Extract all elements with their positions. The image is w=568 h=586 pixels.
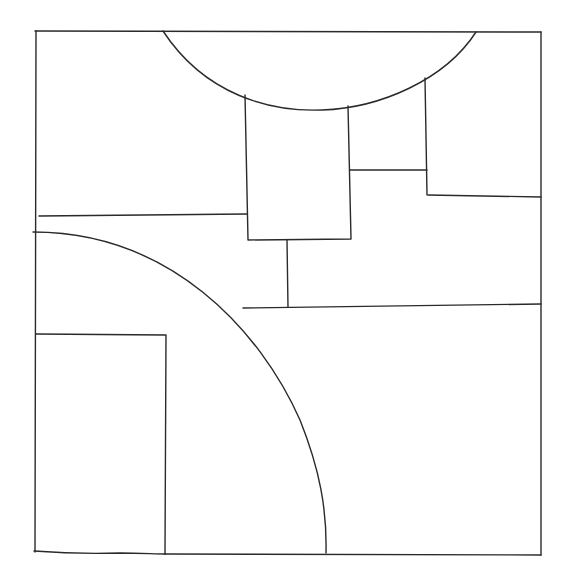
right-step-vertical (425, 78, 427, 195)
top-semicircle-arc (163, 31, 476, 110)
outer-frame-left (35, 31, 36, 552)
lower-left-quarter-arc (33, 232, 326, 553)
floor-plan-sketch (0, 0, 568, 586)
mid-vertical-line (287, 240, 288, 307)
sketch-canvas (0, 0, 568, 586)
outer-frame-bottom (165, 554, 541, 555)
bottom-left-wavy-base (34, 551, 165, 554)
center-rectangle (245, 95, 351, 240)
left-horizontal-line (39, 214, 247, 216)
outer-frame-top (35, 31, 541, 32)
right-step-horizontal (428, 195, 541, 197)
bottom-left-rectangle (36, 334, 166, 554)
